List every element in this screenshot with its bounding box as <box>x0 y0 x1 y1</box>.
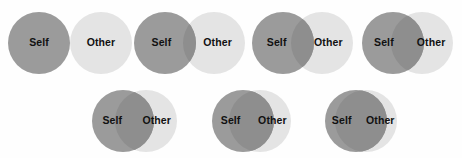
self-label: Self <box>374 36 394 48</box>
ios-pair-graphic-4: SelfOther <box>362 12 453 74</box>
ios-pair-graphic-1: SelfOther <box>8 12 132 74</box>
ios-pair-3[interactable]: SelfOther <box>252 12 353 74</box>
ios-pair-1[interactable]: SelfOther <box>8 12 132 74</box>
self-label: Self <box>332 114 352 126</box>
self-label: Self <box>267 36 287 48</box>
other-label: Other <box>417 36 446 48</box>
ios-pair-2[interactable]: SelfOther <box>134 12 245 74</box>
self-label: Self <box>29 36 49 48</box>
ios-pair-6[interactable]: SelfOther <box>212 90 291 152</box>
other-label: Other <box>366 114 395 126</box>
ios-pair-5[interactable]: SelfOther <box>92 90 177 152</box>
ios-pair-graphic-6: SelfOther <box>212 90 291 152</box>
ios-pair-4[interactable]: SelfOther <box>362 12 453 74</box>
other-label: Other <box>203 36 232 48</box>
ios-pair-graphic-7: SelfOther <box>325 90 397 152</box>
other-label: Other <box>87 36 116 48</box>
self-label: Self <box>221 114 241 126</box>
self-label: Self <box>102 114 122 126</box>
other-label: Other <box>142 114 171 126</box>
other-label: Other <box>258 114 287 126</box>
ios-pair-graphic-3: SelfOther <box>252 12 353 74</box>
ios-scale: SelfOtherSelfOtherSelfOtherSelfOtherSelf… <box>0 0 462 158</box>
ios-pair-graphic-5: SelfOther <box>92 90 177 152</box>
ios-pair-graphic-2: SelfOther <box>134 12 245 74</box>
other-label: Other <box>314 36 343 48</box>
self-label: Self <box>152 36 172 48</box>
ios-pair-7[interactable]: SelfOther <box>325 90 397 152</box>
